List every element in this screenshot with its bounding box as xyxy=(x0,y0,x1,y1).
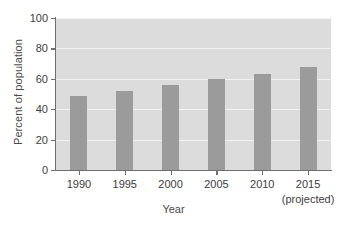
x-axis-tick-label: 2000 xyxy=(158,178,182,190)
x-axis-title: Year xyxy=(0,203,347,215)
y-axis-tick-label: 100 xyxy=(30,12,48,24)
y-axis-tick-label: 80 xyxy=(36,42,48,54)
gridline xyxy=(56,79,331,80)
y-axis-line xyxy=(55,17,56,171)
plot-area: 020406080100 199019952000200520102015(pr… xyxy=(56,18,331,170)
bar xyxy=(162,85,179,170)
x-axis-tick-label: 2005 xyxy=(204,178,228,190)
x-axis-line xyxy=(55,170,332,171)
y-axis-title: Percent of population xyxy=(10,12,26,172)
bar xyxy=(70,96,87,170)
bar xyxy=(116,91,133,170)
plot-background xyxy=(56,18,331,170)
bar xyxy=(208,79,225,170)
gridline xyxy=(56,18,331,19)
bar xyxy=(254,74,271,170)
y-axis-tick-label: 60 xyxy=(36,73,48,85)
gridline xyxy=(56,109,331,110)
gridline xyxy=(56,140,331,141)
x-axis-tick-label: 2015 xyxy=(296,178,320,190)
y-axis-tick-label: 0 xyxy=(42,164,48,176)
bar xyxy=(300,67,317,170)
x-axis-tick-label: 2010 xyxy=(250,178,274,190)
clipped-caption-text xyxy=(0,221,347,227)
bar-chart-figure: Percent of population 020406080100 19901… xyxy=(0,0,347,227)
y-axis-tick-label: 20 xyxy=(36,134,48,146)
x-axis-tick-label: 1995 xyxy=(113,178,137,190)
y-axis-tick-label: 40 xyxy=(36,103,48,115)
gridline xyxy=(56,48,331,49)
x-axis-tick-label: 1990 xyxy=(67,178,91,190)
